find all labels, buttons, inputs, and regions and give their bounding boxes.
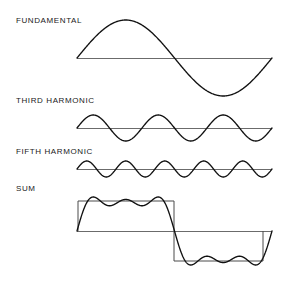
- waveform-plot: [0, 0, 291, 288]
- harmonic-synthesis-figure: FUNDAMENTAL THIRD HARMONIC FIFTH HARMONI…: [0, 0, 291, 288]
